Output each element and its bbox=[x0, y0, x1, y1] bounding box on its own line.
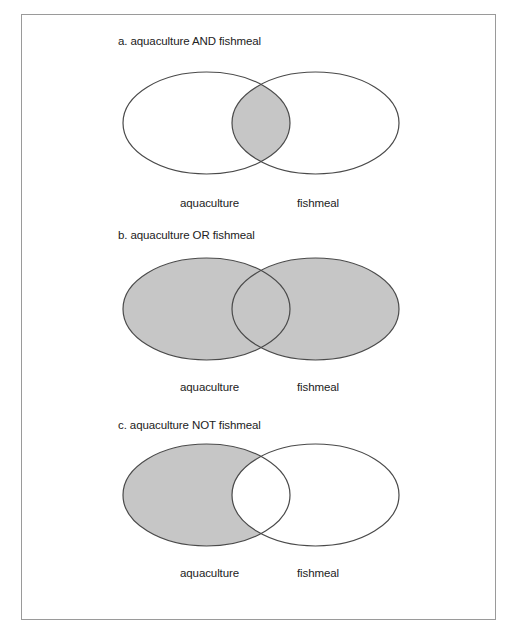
venn-or bbox=[123, 258, 399, 360]
diagram-a-title: a. aquaculture AND fishmeal bbox=[118, 35, 261, 47]
diagram-a-right-label: fishmeal bbox=[297, 197, 339, 209]
diagram-b-title: b. aquaculture OR fishmeal bbox=[118, 229, 255, 241]
diagram-b-left-label: aquaculture bbox=[180, 381, 239, 393]
diagram-b-right-label: fishmeal bbox=[297, 381, 339, 393]
difference-region bbox=[123, 444, 290, 546]
venn-diagrams bbox=[0, 0, 512, 637]
venn-and bbox=[123, 72, 399, 174]
diagram-c-title: c. aquaculture NOT fishmeal bbox=[118, 419, 261, 431]
fishmeal-fill bbox=[232, 258, 399, 360]
intersection-region bbox=[232, 72, 399, 174]
diagram-c-right-label: fishmeal bbox=[297, 567, 339, 579]
diagram-a-left-label: aquaculture bbox=[180, 197, 239, 209]
diagram-c-left-label: aquaculture bbox=[180, 567, 239, 579]
venn-not bbox=[123, 444, 399, 546]
